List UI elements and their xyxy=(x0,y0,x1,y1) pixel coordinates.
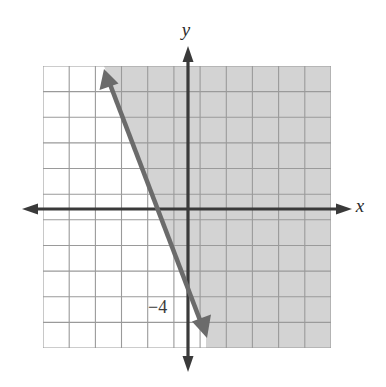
y-axis-label: y xyxy=(180,19,191,40)
y-intercept-tick-label: −4 xyxy=(148,297,167,317)
shaded-solution-region xyxy=(104,66,331,348)
shade-polygon xyxy=(104,66,331,348)
graph-figure: x y −4 xyxy=(0,0,386,387)
x-axis-arrow-right xyxy=(336,204,352,215)
x-axis-label: x xyxy=(355,195,365,216)
x-axis-arrow-left xyxy=(22,204,38,215)
coordinate-plane-graph: x y −4 xyxy=(0,0,386,387)
y-axis-arrow-top xyxy=(183,46,194,62)
y-axis-arrow-bottom xyxy=(183,356,194,372)
